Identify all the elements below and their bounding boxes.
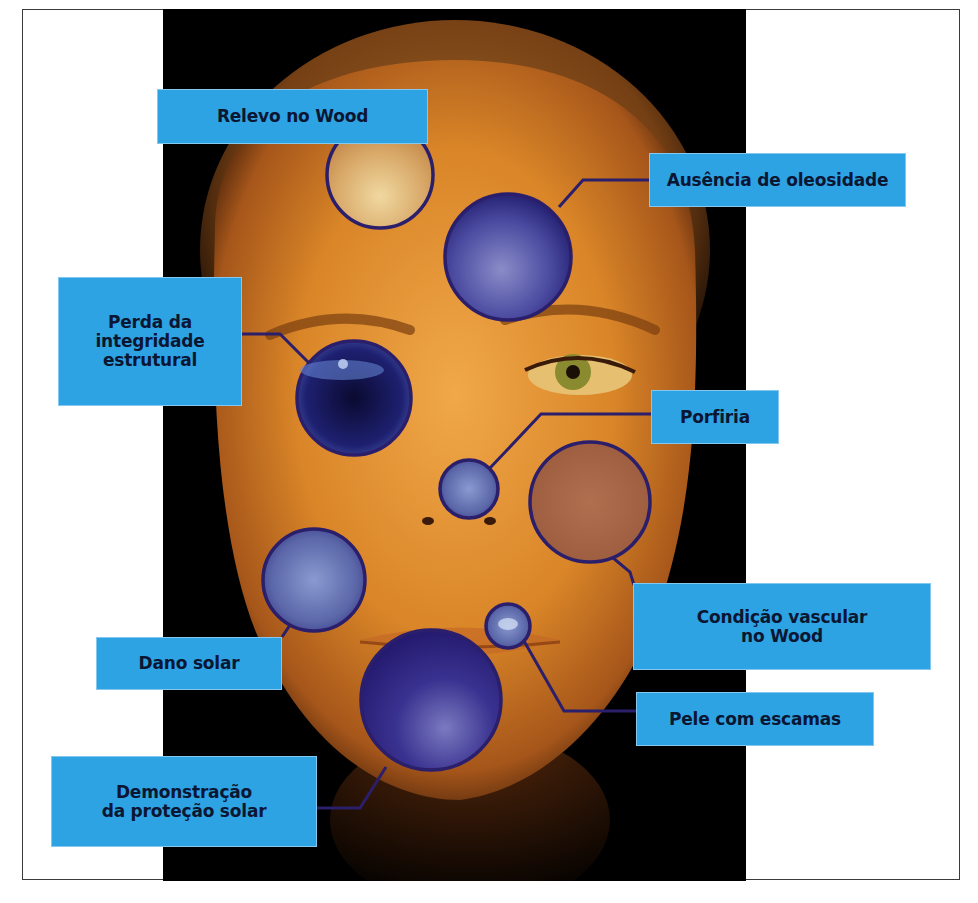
label-demonstracao-protecao-solar: Demonstração da proteção solar [51, 756, 317, 847]
label-text: Porfiria [680, 408, 750, 427]
label-line: Demonstração [116, 783, 252, 802]
label-relevo-no-wood: Relevo no Wood [157, 89, 428, 144]
label-line: integridade [95, 332, 204, 351]
label-text: Pele com escamas [669, 710, 841, 729]
label-line: Condição vascular [697, 608, 868, 627]
label-line: estrutural [103, 351, 197, 370]
label-condicao-vascular-no-wood: Condição vascular no Wood [633, 583, 931, 670]
label-text: Dano solar [139, 654, 240, 673]
label-line: da proteção solar [102, 802, 267, 821]
label-dano-solar: Dano solar [96, 637, 282, 690]
label-perda-integridade-estrutural: Perda da integridade estrutural [58, 277, 242, 406]
label-line: Perda da [108, 313, 192, 332]
label-text: Ausência de oleosidade [667, 171, 889, 190]
label-porfiria: Porfiria [651, 390, 779, 444]
label-ausencia-de-oleosidade: Ausência de oleosidade [649, 153, 906, 207]
label-line: no Wood [741, 627, 823, 646]
label-text: Relevo no Wood [217, 107, 368, 126]
label-pele-com-escamas: Pele com escamas [636, 692, 874, 746]
